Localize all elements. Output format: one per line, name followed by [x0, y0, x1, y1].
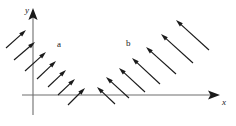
vector-shaft: [68, 92, 81, 105]
vector-arrow-a-2: [14, 42, 35, 60]
y-axis-label: y: [24, 5, 29, 15]
vector-field-figure: x y a b: [0, 0, 236, 126]
vector-arrow-b-5: [146, 47, 176, 74]
vector-arrow-a-5: [48, 70, 66, 87]
vector-arrow-group: [6, 20, 209, 105]
vector-arrow-a-7: [68, 88, 85, 105]
vector-arrow-b-3: [119, 68, 145, 92]
vector-arrow-b-7: [176, 20, 209, 50]
vector-arrow-a-1: [6, 30, 26, 48]
vector-arrow-a-4: [37, 61, 56, 79]
x-axis: [22, 91, 220, 100]
vector-shaft: [14, 46, 31, 60]
vector-arrow-b-6: [161, 34, 193, 63]
vector-shaft: [58, 83, 71, 95]
vector-field-canvas: x y a b: [0, 0, 236, 126]
vector-shaft: [180, 24, 209, 50]
vector-shaft: [136, 62, 160, 84]
field-label-a: a: [57, 39, 61, 49]
x-axis-label: x: [221, 97, 226, 107]
field-label-b: b: [126, 38, 131, 48]
vector-shaft: [37, 65, 52, 79]
vector-arrow-a-3: [25, 52, 46, 71]
vector-arrow-a-6: [58, 79, 75, 95]
vector-shaft: [6, 34, 22, 48]
vector-shaft: [150, 51, 176, 74]
vector-shaft: [165, 38, 193, 63]
vector-shaft: [48, 74, 62, 87]
vector-shaft: [101, 91, 115, 104]
vector-shaft: [123, 72, 145, 92]
vector-arrow-b-4: [132, 58, 160, 84]
